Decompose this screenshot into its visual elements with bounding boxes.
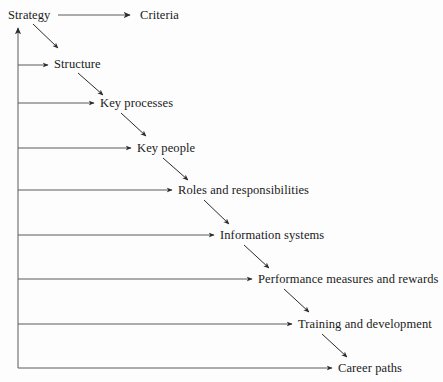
cascade-arrow-1 — [78, 73, 103, 95]
node-label-performance-measures-and-rewards: Performance measures and rewards — [258, 273, 439, 286]
cascade-arrow-3 — [163, 158, 188, 180]
cascade-arrow-0 — [33, 24, 58, 48]
node-label-key-people: Key people — [137, 142, 195, 155]
node-label-information-systems: Information systems — [220, 229, 324, 242]
cascade-arrow-7 — [322, 334, 347, 357]
node-label-structure: Structure — [54, 58, 101, 71]
node-label-training-and-development: Training and development — [298, 318, 432, 331]
node-label-career-paths: Career paths — [338, 362, 402, 375]
cascade-arrow-4 — [204, 200, 229, 224]
cascade-arrow-2 — [121, 113, 146, 136]
node-label-criteria: Criteria — [140, 9, 179, 22]
node-label-strategy: Strategy — [8, 9, 50, 22]
cascade-arrow-5 — [244, 245, 269, 268]
horizontal-branch-arrows — [18, 65, 332, 368]
node-label-roles-and-responsibilities: Roles and responsibilities — [178, 184, 309, 197]
cascade-diagram: Strategy Criteria StructureKey processes… — [0, 0, 443, 382]
node-label-key-processes: Key processes — [100, 97, 173, 110]
cascade-arrow-6 — [284, 289, 309, 312]
